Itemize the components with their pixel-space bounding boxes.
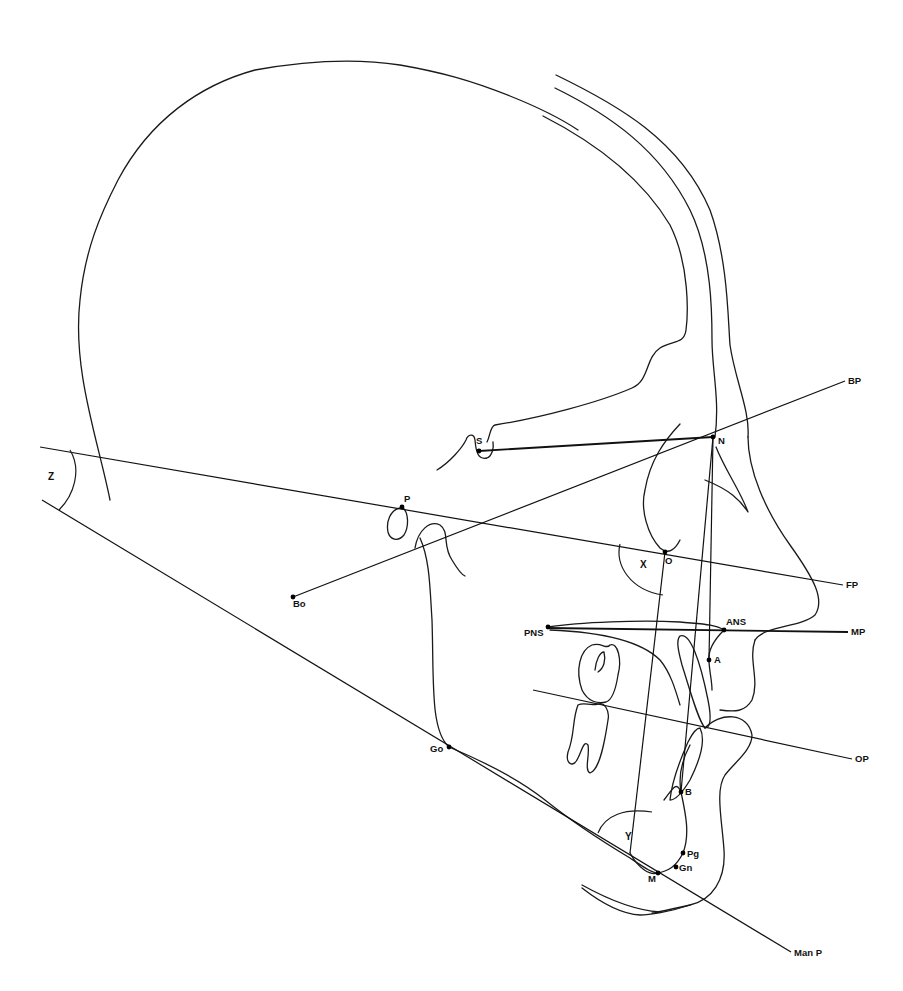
landmark-label-a: A	[714, 654, 721, 665]
reference-lines	[40, 381, 852, 952]
reference-line-bp	[293, 381, 845, 597]
landmark-point-b	[679, 790, 684, 795]
angle-labels: XYZ	[48, 471, 647, 842]
landmark-point-pg	[681, 851, 686, 856]
line-label-bp: BP	[848, 375, 862, 386]
landmark-point-p	[400, 505, 405, 510]
landmark-point-m	[656, 871, 661, 876]
landmark-label-p: P	[404, 493, 411, 504]
reference-line-manp	[42, 500, 791, 952]
landmark-point-a	[707, 658, 712, 663]
mandible	[449, 745, 690, 874]
skull-outline	[78, 61, 818, 915]
landmark-point-s	[477, 449, 482, 454]
angle-label-z: Z	[48, 471, 54, 482]
line-label-fp: FP	[846, 579, 859, 590]
cephalometric-diagram: SNPOBoPNSANSAGoBPgGnM XYZ BPFPMPOPMan P	[0, 0, 903, 991]
line-labels: BPFPMPOPMan P	[794, 375, 869, 958]
line-label-mp: MP	[851, 626, 866, 637]
landmark-point-pns	[546, 625, 551, 630]
landmark-label-s: S	[476, 435, 482, 446]
landmark-label-ans: ANS	[726, 616, 746, 627]
landmark-label-pg: Pg	[687, 848, 699, 859]
landmark-label-gn: Gn	[679, 862, 692, 873]
landmark-label-bo: Bo	[293, 598, 306, 609]
maxilla-palate	[548, 621, 724, 705]
landmark-point-ans	[722, 628, 727, 633]
porion-and-mastoid	[388, 507, 466, 747]
landmark-label-go: Go	[430, 743, 443, 754]
reference-line-nb	[681, 437, 713, 792]
angle-arc-z	[59, 450, 76, 510]
reference-line-y	[630, 552, 665, 853]
angle-label-y: Y	[625, 831, 632, 842]
line-label-op: OP	[855, 753, 869, 764]
landmark-point-go	[447, 745, 452, 750]
reference-line-sn	[479, 437, 713, 451]
landmark-label-b: B	[685, 786, 692, 797]
landmark-label-o: O	[665, 555, 672, 566]
angle-arcs	[59, 450, 663, 833]
angle-label-x: X	[640, 559, 647, 570]
sella-and-cranial-base	[437, 424, 748, 551]
reference-line-mp	[548, 628, 848, 632]
line-label-manp: Man P	[794, 947, 823, 958]
landmark-label-n: N	[718, 435, 725, 446]
landmark-label-m: M	[648, 873, 656, 884]
landmark-label-pns: PNS	[524, 627, 544, 638]
angle-arc-y	[598, 811, 652, 833]
landmark-point-n	[711, 435, 716, 440]
landmark-point-gn	[674, 865, 679, 870]
landmark-point-o	[663, 550, 668, 555]
